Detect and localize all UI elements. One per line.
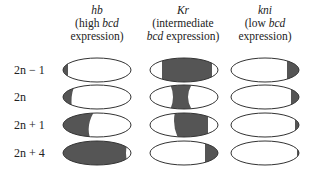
embryo-diagram [0,0,317,178]
embryo-kr-2n [150,84,218,110]
embryo-kni-2n-plus-4 [231,140,303,166]
embryo-kni-2n-plus-1 [231,112,303,138]
embryo-hb-2n-plus-1 [60,112,131,138]
embryo-kni-2n [231,84,303,110]
embryo-kni-2n-minus-1 [231,55,302,85]
embryo-hb-2n-minus-1 [60,55,131,85]
embryo-kr-2n-plus-4 [150,140,225,166]
embryo-hb-2n-plus-4 [60,140,131,166]
embryo-kr-2n-minus-1 [150,55,218,85]
embryo-kr-2n-plus-1 [150,112,218,138]
embryo-hb-2n [60,84,131,110]
